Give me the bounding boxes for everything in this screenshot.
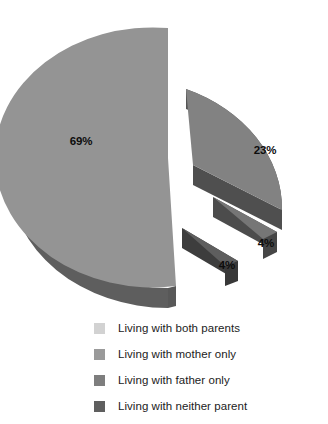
legend-swatch-neither-parent (94, 401, 105, 412)
legend-item-neither-parent[interactable]: Living with neither parent (94, 396, 324, 417)
pie-chart-figure: 69% 23% 4% 4% Living with both parents L… (0, 0, 328, 424)
legend-item-father-only[interactable]: Living with father only (94, 370, 324, 391)
legend-item-mother-only[interactable]: Living with mother only (94, 344, 324, 365)
legend-item-both-parents[interactable]: Living with both parents (94, 318, 324, 339)
slice-label-neither-parent: 4% (219, 259, 235, 271)
legend-label-neither-parent: Living with neither parent (118, 400, 247, 413)
legend-label-mother-only: Living with mother only (118, 348, 236, 361)
slice-label-mother-only: 23% (254, 144, 277, 156)
legend-swatch-mother-only (94, 349, 105, 360)
legend-label-father-only: Living with father only (118, 374, 230, 387)
legend-swatch-both-parents (94, 323, 105, 334)
legend-label-both-parents: Living with both parents (118, 322, 240, 335)
slice-label-father-only: 4% (258, 237, 274, 249)
legend-swatch-father-only (94, 375, 105, 386)
slice-top-both-parents (0, 27, 176, 287)
chart-legend: Living with both parents Living with mot… (94, 318, 324, 422)
slice-label-both-parents: 69% (70, 135, 93, 147)
pie-chart-graphic: 69% 23% 4% 4% (0, 0, 328, 310)
slice-side-both-parents-radial (168, 286, 176, 308)
